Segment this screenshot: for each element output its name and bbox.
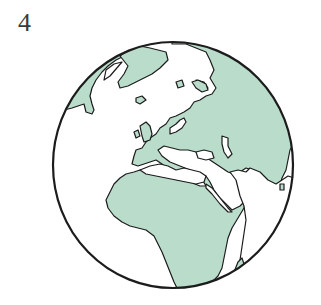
- island-sri-lanka: [280, 184, 284, 190]
- globe-illustration: [0, 0, 321, 305]
- sea-black: [196, 150, 214, 160]
- island-svalbard: [176, 80, 184, 88]
